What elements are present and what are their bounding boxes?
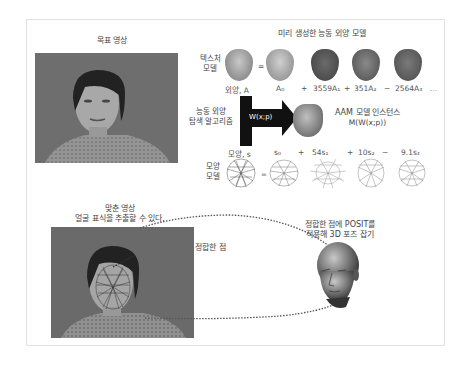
search-algorithm-label-2: 탐색 알고리즘 bbox=[183, 117, 239, 127]
posit-label-2: 적용해 3D 포즈 잡기 bbox=[290, 230, 390, 240]
shape-mesh-s2 bbox=[358, 159, 384, 187]
texture-lhs: 외양, A bbox=[225, 84, 249, 95]
aam-instance-face bbox=[293, 104, 323, 137]
target-image-photo bbox=[35, 53, 178, 163]
texture-model-label-1: 텍스처 bbox=[190, 54, 230, 64]
texture-equals-sign: = bbox=[258, 62, 264, 71]
shape-equals-sign: = bbox=[261, 171, 267, 179]
aam-instance-label-1: AAM 모델 인스턴스 bbox=[330, 108, 405, 118]
texture-ellipsis: ... bbox=[430, 84, 437, 93]
3d-head-model-icon bbox=[312, 241, 362, 311]
texture-term-a0: A₀ bbox=[276, 84, 284, 93]
texture-term-a2: 351A₂ bbox=[354, 84, 376, 93]
warp-function-label: W(x;p) bbox=[249, 113, 272, 121]
texture-model-label-2: 모델 bbox=[190, 64, 230, 74]
texture-op-2: + bbox=[344, 84, 350, 93]
shape-op-1: + bbox=[298, 148, 304, 157]
posit-label-1: 정합한 점에 POSIT를 bbox=[290, 220, 390, 230]
shape-term-s0: s₀ bbox=[274, 148, 281, 157]
aam-instance-label-2: M(W(x;p)) bbox=[330, 118, 405, 128]
shape-mesh-s0 bbox=[270, 160, 298, 186]
target-image-label: 목표 영상 bbox=[82, 36, 142, 46]
shape-mesh-s bbox=[227, 159, 255, 187]
shape-op-2: + bbox=[347, 148, 353, 157]
shape-mesh-row: = bbox=[226, 157, 431, 189]
warp-arrow-icon bbox=[236, 96, 298, 146]
shape-model-label-1: 모양 bbox=[198, 162, 228, 172]
shape-model-label-2: 모델 bbox=[198, 172, 228, 182]
texture-term-a3: 2564A₃ bbox=[395, 84, 422, 93]
shape-term-s3: 9.1s₃ bbox=[401, 148, 420, 157]
texture-op-3: − bbox=[384, 84, 390, 93]
shape-op-3: − bbox=[382, 148, 388, 157]
shape-term-s1: 54s₁ bbox=[312, 148, 328, 157]
shape-term-s2: 10s₂ bbox=[358, 148, 374, 157]
search-algorithm-label-1: 능동 외양 bbox=[186, 107, 236, 117]
texture-term-a1: 3559A₁ bbox=[313, 84, 340, 93]
shape-mesh-s3 bbox=[399, 160, 425, 186]
lower-dotted-line bbox=[145, 302, 340, 319]
shape-mesh-s1 bbox=[310, 159, 346, 188]
person-photo-icon bbox=[35, 53, 178, 163]
prebuilt-model-title: 미리 생성한 능동 외양 모델 bbox=[262, 29, 382, 39]
texture-op-1: + bbox=[301, 84, 307, 93]
matched-points-label: 정합한 점 bbox=[195, 243, 235, 253]
